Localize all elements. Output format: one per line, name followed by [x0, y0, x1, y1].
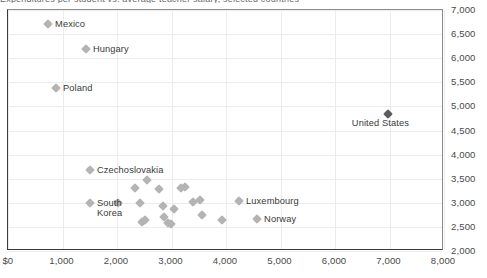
gridline-horizontal	[8, 179, 442, 180]
x-axis-tick-label: 4,000	[213, 255, 238, 266]
gridline-horizontal	[8, 10, 442, 11]
data-point-label: South Korea	[97, 198, 122, 219]
gridline-vertical	[390, 10, 391, 249]
y-axis-tick-label: 7,000	[451, 4, 476, 15]
scatter-chart: Expenditures per student vs. average tea…	[0, 0, 487, 278]
data-point[interactable]	[234, 196, 244, 206]
plot-area: MexicoHungaryPolandUnited StatesCzechosl…	[7, 9, 443, 250]
data-point-label: Hungary	[93, 44, 129, 55]
gridline-vertical	[281, 10, 282, 249]
y-axis-tick-label: 6,000	[451, 52, 476, 63]
x-axis-tick-label: 7,000	[376, 255, 401, 266]
x-axis-tick-label: 3,000	[158, 255, 183, 266]
data-point[interactable]	[142, 175, 152, 185]
y-axis-tick-label: 4,500	[451, 124, 476, 135]
x-axis-tick-label: $0	[2, 255, 13, 266]
gridline-horizontal	[8, 58, 442, 59]
clipped-caption: Expenditures per student vs. average tea…	[0, 0, 487, 3]
data-point-label: Czechoslovakia	[97, 165, 164, 176]
y-axis-tick-label: 5,000	[451, 100, 476, 111]
gridline-horizontal	[8, 155, 442, 156]
data-point[interactable]	[43, 20, 53, 30]
gridline-horizontal	[8, 34, 442, 35]
data-point[interactable]	[130, 183, 140, 193]
y-axis-tick-label: 4,000	[451, 148, 476, 159]
y-axis-tick-label: 6,500	[451, 28, 476, 39]
data-point[interactable]	[154, 184, 164, 194]
data-point[interactable]	[81, 44, 91, 54]
x-axis-tick-label: 6,000	[322, 255, 347, 266]
gridline-horizontal	[8, 131, 442, 132]
data-point-label: Luxembourg	[246, 196, 299, 207]
data-point[interactable]	[51, 83, 61, 93]
data-point-label: Norway	[264, 214, 296, 225]
gridline-vertical	[172, 10, 173, 249]
x-axis-tick-label: 5,000	[267, 255, 292, 266]
data-point[interactable]	[252, 214, 262, 224]
gridline-horizontal	[8, 106, 442, 107]
gridline-horizontal	[8, 227, 442, 228]
x-axis-tick-label: 2,000	[104, 255, 129, 266]
data-point[interactable]	[85, 198, 95, 208]
gridline-vertical	[63, 10, 64, 249]
data-point-label: Poland	[63, 83, 93, 94]
y-axis-tick-label: 3,000	[451, 196, 476, 207]
y-axis-tick-label: 5,500	[451, 76, 476, 87]
y-axis-tick-label: 2,500	[451, 220, 476, 231]
gridline-vertical	[444, 10, 445, 249]
gridline-vertical	[335, 10, 336, 249]
data-point[interactable]	[197, 210, 207, 220]
y-axis-tick-label: 2,000	[451, 245, 476, 256]
gridline-vertical	[226, 10, 227, 249]
data-point-label: Mexico	[55, 19, 85, 30]
x-axis-tick-label: 8,000	[431, 255, 456, 266]
y-axis-tick-label: 3,500	[451, 172, 476, 183]
gridline-vertical	[8, 10, 9, 249]
gridline-horizontal	[8, 203, 442, 204]
data-point-label: United States	[352, 118, 409, 129]
x-axis-tick-label: 1,000	[49, 255, 74, 266]
data-point[interactable]	[85, 165, 95, 175]
data-point[interactable]	[135, 198, 145, 208]
gridline-horizontal	[8, 251, 442, 252]
